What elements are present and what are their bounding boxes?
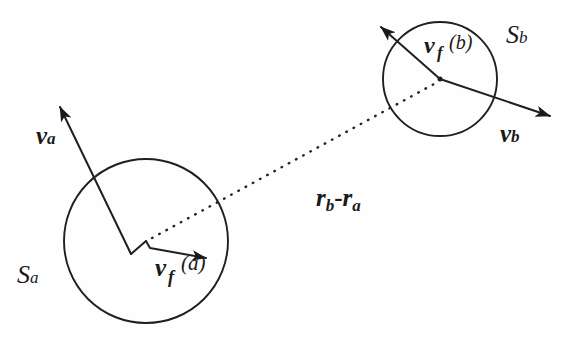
label-v-a-base: v <box>36 122 47 149</box>
label-s-a-subscript: a <box>30 268 39 287</box>
label-v-f-b: vf(b) <box>424 33 435 57</box>
label-v-f-a-base: v <box>155 254 166 281</box>
label-v-b-subscript: b <box>511 127 520 146</box>
label-r-b-subscript: b <box>326 196 335 215</box>
vector-v-a <box>60 107 131 254</box>
label-v-f-b-base: v <box>424 32 435 58</box>
label-s-b-subscript: b <box>519 28 528 47</box>
label-v-a: va <box>36 123 56 148</box>
label-r-b-base: r <box>316 184 326 211</box>
label-r-a-subscript: a <box>352 196 361 215</box>
label-r-difference: rb-ra <box>316 185 361 214</box>
label-v-f-b-subscript: f <box>437 44 443 61</box>
label-s-b-base: S <box>506 20 519 49</box>
label-v-b-base: v <box>500 120 511 147</box>
label-v-b: vb <box>500 121 520 146</box>
vector-v-a-tail-stub <box>131 241 146 254</box>
label-r-operator: - <box>334 184 342 211</box>
vector-v-b <box>440 79 550 116</box>
label-v-f-b-argument: (b) <box>449 32 472 52</box>
label-v-a-subscript: a <box>47 129 56 148</box>
vector-diagram-figure: va Sa vf(a) rb-ra vf(b) Sb vb <box>0 0 577 357</box>
diagram-canvas <box>0 0 577 357</box>
label-s-b: Sb <box>506 22 528 48</box>
label-s-a: Sa <box>17 262 39 288</box>
label-s-a-base: S <box>17 260 30 289</box>
label-v-f-a-subscript: f <box>168 268 174 286</box>
label-v-f-a-argument: (a) <box>181 253 206 274</box>
label-v-f-a: vf(a) <box>155 255 166 280</box>
label-r-a-base: r <box>343 184 353 211</box>
vector-r-difference <box>152 84 434 238</box>
